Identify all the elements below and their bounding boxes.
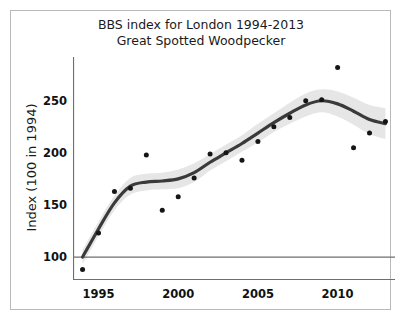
data-point xyxy=(144,152,149,157)
data-point xyxy=(303,98,308,103)
data-point xyxy=(208,151,213,156)
chart-title-line-1: BBS index for London 1994-2013 xyxy=(0,17,402,33)
data-point xyxy=(287,115,292,120)
data-point xyxy=(383,119,388,124)
data-point xyxy=(271,124,276,129)
data-point xyxy=(351,145,356,150)
data-point xyxy=(112,189,117,194)
data-point xyxy=(176,194,181,199)
data-point xyxy=(224,150,229,155)
bottom-caption-fragment xyxy=(12,315,212,322)
trend-line xyxy=(83,101,386,257)
y-tick-label: 100 xyxy=(27,252,67,263)
plot-svg xyxy=(73,57,395,280)
y-tick-label: 150 xyxy=(27,200,67,211)
y-tick-label: 250 xyxy=(27,96,67,107)
data-point xyxy=(128,186,133,191)
confidence-band xyxy=(83,89,386,264)
data-point xyxy=(160,208,165,213)
data-point xyxy=(239,158,244,163)
chart-title-line-2: Great Spotted Woodpecker xyxy=(0,33,402,49)
data-point xyxy=(255,139,260,144)
data-point xyxy=(96,231,101,236)
chart-figure: BBS index for London 1994-2013 Great Spo… xyxy=(0,0,402,323)
data-point xyxy=(192,175,197,180)
y-tick-label: 200 xyxy=(27,148,67,159)
plot-area xyxy=(73,57,395,280)
x-tick-label: 2000 xyxy=(148,289,208,300)
chart-title: BBS index for London 1994-2013 Great Spo… xyxy=(0,17,402,49)
data-point xyxy=(80,267,85,272)
x-tick-label: 1995 xyxy=(69,289,129,300)
data-point xyxy=(319,97,324,102)
data-point xyxy=(335,65,340,70)
x-tick-label: 2005 xyxy=(228,289,288,300)
x-tick-label: 2010 xyxy=(308,289,368,300)
data-point xyxy=(367,131,372,136)
